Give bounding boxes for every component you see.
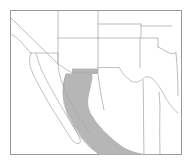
map-canvas	[0, 0, 193, 166]
distribution-range-map-figure	[0, 0, 193, 166]
